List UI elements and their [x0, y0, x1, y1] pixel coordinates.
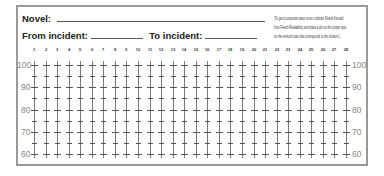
- column-number: 11: [148, 47, 152, 52]
- scale-tick: [31, 154, 38, 155]
- scale-tick: [320, 65, 327, 66]
- scale-tick: [89, 132, 96, 133]
- scale-tick: [31, 110, 38, 111]
- scale-tick: [148, 121, 153, 122]
- scale-label-left: 60: [21, 149, 30, 159]
- scale-tick: [227, 87, 234, 88]
- scale-tick: [101, 121, 106, 122]
- scale-tick: [331, 65, 338, 66]
- scale-tick: [309, 76, 314, 77]
- scale-tick: [147, 110, 154, 111]
- scale-tick: [309, 98, 314, 99]
- scale-tick: [331, 110, 338, 111]
- scale-tick: [227, 154, 234, 155]
- scale-tick: [44, 121, 49, 122]
- scale-tick: [252, 98, 257, 99]
- scale-tick: [54, 110, 61, 111]
- scale-tick: [228, 76, 233, 77]
- scale-tick: [274, 132, 281, 133]
- scale-tick: [286, 143, 291, 144]
- column-number: 25: [309, 47, 313, 52]
- scale-tick: [136, 76, 141, 77]
- scale-tick: [332, 121, 337, 122]
- scale-tick: [321, 76, 326, 77]
- scale-tick: [320, 110, 327, 111]
- scale-tick: [239, 154, 246, 155]
- scale-tick: [124, 76, 129, 77]
- scale-tick: [216, 132, 223, 133]
- scale-tick: [32, 143, 37, 144]
- scale-tick: [297, 154, 304, 155]
- scale-tick: [204, 65, 211, 66]
- scale-label-right: 100: [352, 60, 366, 70]
- scale-tick: [158, 65, 165, 66]
- scale-tick: [297, 132, 304, 133]
- scale-tick: [170, 110, 177, 111]
- scale-tick: [32, 76, 37, 77]
- scale-tick: [100, 110, 107, 111]
- scale-tick: [148, 98, 153, 99]
- scale-tick: [285, 110, 292, 111]
- scale-tick: [55, 98, 60, 99]
- scale-tick: [182, 98, 187, 99]
- scale-tick: [78, 76, 83, 77]
- scale-tick: [77, 110, 84, 111]
- scale-tick: [147, 132, 154, 133]
- scale-tick: [77, 132, 84, 133]
- scale-tick: [332, 98, 337, 99]
- scale-tick: [262, 87, 269, 88]
- scale-tick: [67, 98, 72, 99]
- scale-tick: [89, 87, 96, 88]
- scale-tick: [100, 154, 107, 155]
- scale-tick: [181, 65, 188, 66]
- scale-tick: [298, 121, 303, 122]
- column-number: 22: [275, 47, 279, 52]
- scale-label-left: 70: [21, 127, 30, 137]
- scale-tick: [308, 87, 315, 88]
- scale-tick: [100, 65, 107, 66]
- scale-tick: [113, 143, 118, 144]
- scale-tick: [54, 65, 61, 66]
- scale-tick: [112, 110, 119, 111]
- scale-tick: [181, 154, 188, 155]
- scale-tick: [263, 121, 268, 122]
- scale-tick: [320, 154, 327, 155]
- scale-label-right: 80: [352, 105, 361, 115]
- scale-tick: [252, 121, 257, 122]
- scale-tick: [67, 143, 72, 144]
- scale-tick: [89, 110, 96, 111]
- scale-tick: [274, 110, 281, 111]
- scale-tick: [205, 76, 210, 77]
- scale-tick: [239, 65, 246, 66]
- scale-tick: [124, 98, 129, 99]
- scale-tick: [263, 76, 268, 77]
- scale-tick: [158, 87, 165, 88]
- scale-tick: [321, 143, 326, 144]
- scale-tick: [101, 143, 106, 144]
- column-number: 13: [171, 47, 175, 52]
- scale-tick: [54, 154, 61, 155]
- scale-tick: [194, 121, 199, 122]
- scale-tick: [298, 98, 303, 99]
- scale-tick: [204, 154, 211, 155]
- scale-tick: [171, 143, 176, 144]
- scale-tick: [227, 110, 234, 111]
- scale-tick: [320, 132, 327, 133]
- scale-tick: [320, 87, 327, 88]
- scale-tick: [43, 110, 50, 111]
- scale-tick: [181, 132, 188, 133]
- scale-tick: [78, 143, 83, 144]
- scale-tick: [263, 98, 268, 99]
- scale-tick: [228, 98, 233, 99]
- column-number: 17: [217, 47, 221, 52]
- scale-tick: [308, 132, 315, 133]
- scale-tick: [275, 143, 280, 144]
- scale-tick: [55, 121, 60, 122]
- scale-tick: [240, 121, 245, 122]
- scale-tick: [251, 110, 258, 111]
- scale-tick: [90, 143, 95, 144]
- scale-tick: [331, 154, 338, 155]
- scale-tick: [216, 65, 223, 66]
- scale-tick: [274, 65, 281, 66]
- scale-tick: [77, 154, 84, 155]
